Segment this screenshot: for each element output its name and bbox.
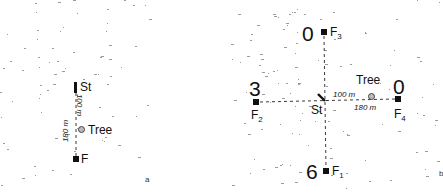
feeder-sub-f1: 1 [339, 171, 343, 180]
start-marker-b [318, 94, 325, 101]
feeder-marker-f3 [321, 29, 327, 35]
feeder-label-f1: F1 [332, 165, 344, 182]
start-marker-a [74, 82, 77, 93]
feeder-marker-a [73, 156, 79, 162]
start-label-b: St [311, 104, 322, 116]
feeder-sub-f2: 2 [258, 115, 262, 124]
panel-letter-b: b [439, 170, 443, 178]
count-f2: 3 [249, 78, 261, 99]
path-b-vertical [324, 36, 326, 168]
path-lines [0, 0, 443, 194]
feeder-marker-f2 [253, 99, 259, 105]
feeder-sub-f4: 4 [401, 114, 405, 123]
distance-label-a-100: 100 m [75, 94, 83, 116]
path-b-horizontal [260, 99, 395, 102]
feeder-marker-f4 [395, 96, 401, 102]
count-f4: 0 [393, 76, 405, 97]
count-f1: 6 [306, 161, 318, 182]
start-label-a: St [80, 81, 91, 93]
distance-label-a-180: 180 m [62, 120, 70, 142]
feeder-label-f3: F3 [330, 26, 342, 43]
feeder-label-f4: F4 [394, 108, 406, 125]
feeder-marker-f1 [323, 168, 329, 174]
feeder-label-f2: F2 [251, 109, 263, 126]
tree-icon-b [368, 93, 375, 100]
distance-label-b-180: 180 m [354, 104, 376, 112]
feeder-label-a: F [81, 153, 88, 165]
figure-root: St 100 m 180 m Tree F a 0 F3 3 F2 St 100… [0, 0, 443, 194]
count-f3: 0 [302, 23, 314, 44]
tree-icon-a [78, 126, 85, 133]
feeder-sub-f3: 3 [337, 32, 341, 41]
tree-label-a: Tree [88, 124, 112, 136]
tree-label-b: Tree [356, 74, 380, 86]
panel-letter-a: a [145, 176, 149, 184]
distance-label-b-100: 100 m [333, 91, 355, 99]
